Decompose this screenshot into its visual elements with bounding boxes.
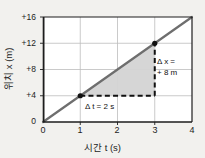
marker-point-3s-12m bbox=[152, 41, 157, 46]
position-time-graph-figure: +16 +12 +8 +4 0 0 1 2 3 4 시간 t (s) 위치 x … bbox=[0, 0, 205, 158]
x-tick-label-3: 3 bbox=[148, 126, 162, 135]
y-tick-label-4: +4 bbox=[12, 91, 36, 100]
delta-x-annotation-line1: Δ x = bbox=[157, 57, 177, 68]
x-tick-label-1: 1 bbox=[73, 126, 87, 135]
delta-x-annotation-line2: + 8 m bbox=[157, 68, 177, 79]
x-tick-label-4: 4 bbox=[185, 126, 199, 135]
x-tick-label-2: 2 bbox=[110, 126, 124, 135]
plot-canvas bbox=[0, 0, 205, 158]
x-tick-label-0: 0 bbox=[36, 126, 50, 135]
delta-x-annotation: Δ x = + 8 m bbox=[157, 57, 177, 79]
y-tick-label-0: 0 bbox=[12, 117, 36, 126]
x-axis-title: 시간 t (s) bbox=[0, 143, 205, 153]
y-tick-label-12: +12 bbox=[12, 39, 36, 48]
delta-t-annotation: Δ t = 2 s bbox=[85, 103, 114, 111]
y-tick-label-16: +16 bbox=[12, 13, 36, 22]
y-axis-title: 위치 x (m) bbox=[4, 29, 14, 109]
y-tick-label-8: +8 bbox=[12, 65, 36, 74]
marker-point-1s-4m bbox=[78, 93, 83, 98]
